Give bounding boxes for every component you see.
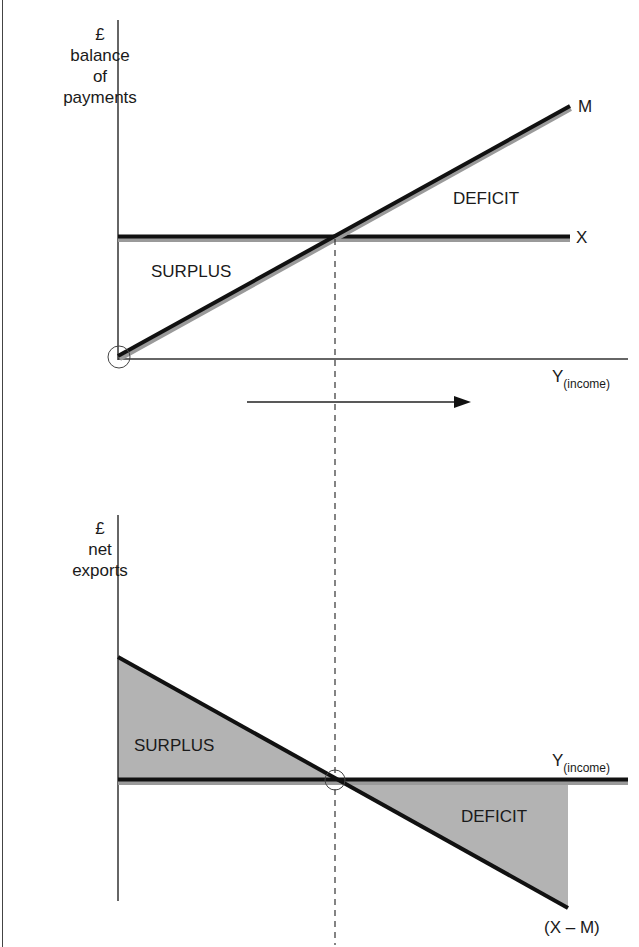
y-label-line2: net — [50, 539, 150, 560]
imports-line-m — [118, 106, 570, 356]
top-chart — [108, 20, 628, 368]
x-axis-main: Y — [552, 751, 563, 770]
x-minus-m-label: (X – M) — [544, 917, 600, 938]
balance-of-payments-diagram — [0, 0, 639, 947]
y-label-currency: £ — [50, 518, 150, 539]
top-deficit-label: DEFICIT — [453, 188, 519, 209]
x-line-label: X — [576, 227, 587, 248]
y-label-line3: of — [50, 66, 150, 87]
bottom-y-axis-label: £ net exports — [50, 518, 150, 581]
x-axis-sub: (income) — [563, 761, 610, 775]
bottom-surplus-label: SURPLUS — [134, 735, 214, 756]
m-line-label: M — [578, 96, 592, 117]
y-label-line2: balance — [50, 45, 150, 66]
x-axis-sub: (income) — [563, 377, 610, 391]
top-y-axis-label: £ balance of payments — [50, 24, 150, 108]
y-label-currency: £ — [50, 24, 150, 45]
y-label-line3: exports — [50, 560, 150, 581]
m-line-shadow — [120, 109, 571, 359]
top-surplus-label: SURPLUS — [151, 261, 231, 282]
top-x-axis-label: Y(income) — [552, 366, 610, 389]
y-label-line4: payments — [50, 87, 150, 108]
bottom-deficit-label: DEFICIT — [461, 806, 527, 827]
x-axis-main: Y — [552, 367, 563, 386]
bottom-x-axis-label: Y(income) — [552, 750, 610, 773]
income-direction-arrow-icon — [247, 396, 471, 408]
bottom-chart — [118, 515, 628, 908]
